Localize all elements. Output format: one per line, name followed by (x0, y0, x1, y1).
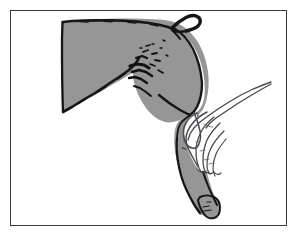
illustration-canvas (0, 0, 297, 236)
figure-root: Hand palpating the hind limb of a gray-s… (0, 0, 297, 236)
limb-mark-2 (182, 148, 186, 149)
left-edge (62, 22, 63, 112)
